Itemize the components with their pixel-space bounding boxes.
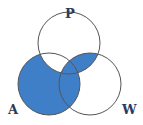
label-p: P (65, 6, 75, 21)
label-w: W (121, 102, 137, 117)
venn-diagram: P A W (0, 0, 143, 125)
label-a: A (7, 102, 19, 117)
